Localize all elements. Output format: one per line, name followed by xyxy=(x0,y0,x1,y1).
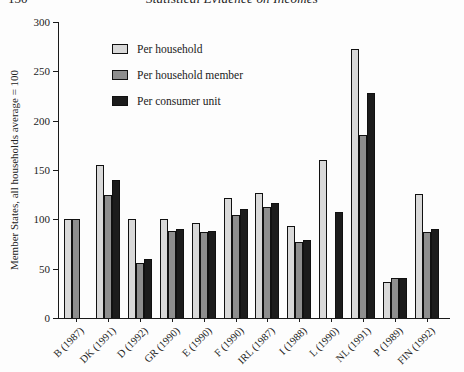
bar-f-series0 xyxy=(224,198,232,318)
y-tick-label: 200 xyxy=(16,116,50,127)
bar-fin-series2 xyxy=(431,229,439,318)
book-page: 130 Statistical Evidence on Incomes Memb… xyxy=(0,0,464,372)
bar-nl-series2 xyxy=(367,93,375,318)
bar-dk-series1 xyxy=(104,195,112,318)
legend-item: Per household member xyxy=(112,62,243,88)
bar-e-series2 xyxy=(208,231,216,318)
bar-d-series1 xyxy=(136,263,144,318)
bar-gr-series1 xyxy=(168,231,176,318)
bar-fin-series1 xyxy=(423,232,431,318)
x-tick xyxy=(267,319,268,322)
bar-f-series2 xyxy=(240,209,248,318)
bar-l-series2 xyxy=(335,212,343,318)
x-tick xyxy=(140,319,141,322)
legend-label: Per consumer unit xyxy=(137,95,221,107)
bar-irl-series2 xyxy=(271,203,279,318)
bar-b-series1 xyxy=(72,219,80,318)
y-tick-label: 100 xyxy=(16,214,50,225)
legend-item: Per consumer unit xyxy=(112,88,243,114)
bar-nl-series0 xyxy=(351,49,359,318)
x-tick xyxy=(299,319,300,322)
x-tick xyxy=(108,319,109,322)
x-tick xyxy=(331,319,332,322)
y-tick xyxy=(53,71,58,72)
bar-i-series1 xyxy=(295,242,303,318)
bar-d-series0 xyxy=(128,219,136,318)
bar-nl-series1 xyxy=(359,135,367,318)
y-tick-label: 50 xyxy=(16,264,50,275)
x-tick xyxy=(204,319,205,322)
legend-swatch xyxy=(112,70,128,80)
bar-i-series2 xyxy=(303,240,311,318)
bar-l-series0 xyxy=(319,160,327,318)
bar-d-series2 xyxy=(144,259,152,318)
bar-irl-series0 xyxy=(255,193,263,318)
x-axis-line xyxy=(56,318,450,319)
x-tick xyxy=(172,319,173,322)
bar-p-series0 xyxy=(383,282,391,318)
bar-f-series1 xyxy=(232,215,240,318)
bar-p-series2 xyxy=(399,278,407,318)
bar-i-series0 xyxy=(287,226,295,318)
legend: Per householdPer household memberPer con… xyxy=(112,36,243,114)
x-tick xyxy=(363,319,364,322)
y-tick-label: 250 xyxy=(16,66,50,77)
y-tick xyxy=(53,22,58,23)
bar-b-series0 xyxy=(64,219,72,318)
bar-fin-series0 xyxy=(415,194,423,318)
y-tick xyxy=(53,219,58,220)
bar-dk-series2 xyxy=(112,180,120,318)
x-tick xyxy=(76,319,77,322)
bar-gr-series0 xyxy=(160,219,168,318)
bar-gr-series2 xyxy=(176,229,184,318)
y-tick xyxy=(53,121,58,122)
x-tick xyxy=(236,319,237,322)
bar-irl-series1 xyxy=(263,207,271,318)
legend-label: Per household xyxy=(137,43,202,55)
bar-e-series1 xyxy=(200,232,208,318)
y-tick-label: 300 xyxy=(16,17,50,28)
y-tick xyxy=(53,318,58,319)
income-bar-chart: Member States, all households average = … xyxy=(0,0,464,372)
legend-swatch xyxy=(112,44,128,54)
legend-item: Per household xyxy=(112,36,243,62)
bar-e-series0 xyxy=(192,223,200,318)
y-tick xyxy=(53,269,58,270)
y-axis-line xyxy=(58,22,59,319)
bar-dk-series0 xyxy=(96,165,104,318)
x-tick xyxy=(395,319,396,322)
legend-swatch xyxy=(112,96,128,106)
legend-label: Per household member xyxy=(137,69,243,81)
x-tick xyxy=(427,319,428,322)
y-tick-label: 150 xyxy=(16,165,50,176)
bar-p-series1 xyxy=(391,278,399,318)
y-tick-label: 0 xyxy=(16,313,50,324)
y-tick xyxy=(53,170,58,171)
